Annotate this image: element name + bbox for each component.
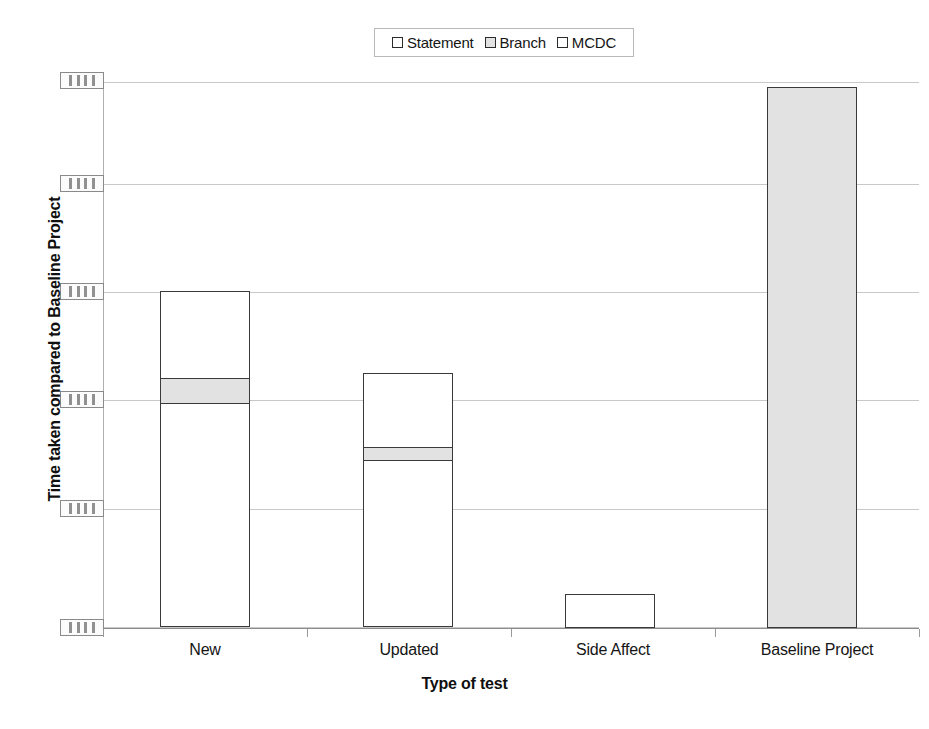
legend-swatch-branch-icon [485,37,496,48]
legend-swatch-mcdc-icon [557,37,568,48]
x-tick-mark [511,629,512,637]
gridline [103,82,919,83]
legend-label-statement: Statement [407,35,474,50]
bar-updated [363,373,453,628]
bar-segment-statement [363,460,453,627]
y-axis-title: Time taken compared to Baseline Project [46,89,64,609]
chart-legend: Statement Branch MCDC [374,28,634,57]
y-tick-label-redacted [60,619,104,636]
x-category-label-new: New [105,640,305,660]
x-tick-mark [919,629,920,637]
legend-label-mcdc: MCDC [572,35,616,50]
legend-entry-statement: Statement [392,35,474,50]
bar-baseline-project [767,87,857,628]
bar-segment-branch [767,87,857,628]
bar-side-affect [565,594,655,628]
y-tick-label-redacted [60,500,104,517]
y-tick-label-redacted [60,72,104,89]
x-category-label-updated: Updated [309,640,509,660]
x-axis-title: Type of test [0,675,929,693]
x-tick-mark [103,629,104,637]
legend-label-branch: Branch [500,35,546,50]
x-category-label-baseline-project: Baseline Project [717,640,917,660]
plot-area [103,82,919,628]
legend-entry-mcdc: MCDC [557,35,616,50]
bar-segment-statement [160,403,250,627]
bar-segment-branch [160,378,250,404]
legend-entry-branch: Branch [485,35,546,50]
y-tick-label-redacted [60,391,104,408]
bar-segment-mcdc [363,373,453,449]
bar-new [160,291,250,628]
legend-swatch-statement-icon [392,37,403,48]
bar-segment-mcdc [160,291,250,380]
y-tick-label-redacted [60,283,104,300]
bar-segment-statement [565,594,655,628]
x-tick-mark [715,629,716,637]
x-tick-mark [307,629,308,637]
y-tick-label-redacted [60,175,104,192]
x-category-label-side-affect: Side Affect [513,640,713,660]
